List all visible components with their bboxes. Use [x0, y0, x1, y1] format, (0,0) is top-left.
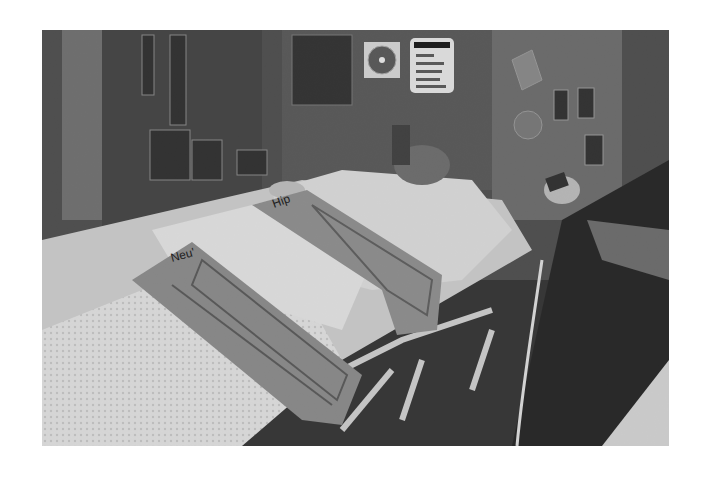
- photo-scene: Hip Neu': [42, 30, 669, 446]
- hospital-photo: Grayscale photograph of a patient lying …: [42, 30, 669, 446]
